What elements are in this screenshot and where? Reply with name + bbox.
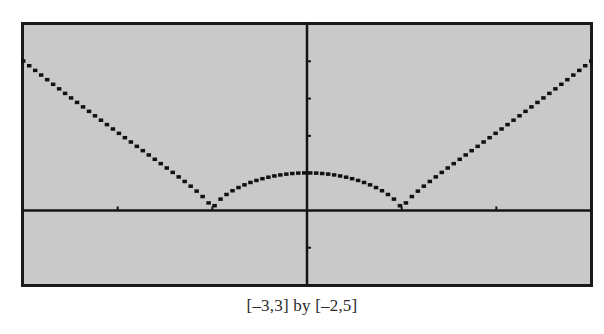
curve-pixel [117,132,122,136]
curve-pixel [565,78,570,82]
curve-pixel [559,83,564,87]
curve-pixel [254,179,259,183]
curve-pixel [27,64,32,67]
curve-pixel [21,59,26,63]
curve-pixel [188,184,193,188]
curve-pixel [535,101,540,105]
curve-pixel [398,204,403,208]
curve-pixel [99,118,104,122]
curve-pixel [410,195,415,199]
curve-pixel [404,201,409,205]
curve-pixel [386,193,391,197]
curve-pixel [481,140,486,144]
curve-pixel [350,177,355,181]
curve-pixel [362,181,367,185]
curve-pixel [164,166,169,170]
curve-pixel [308,171,313,175]
curve-pixel [469,149,474,153]
curve-pixel [266,175,271,179]
curve-pixel [159,162,164,166]
curve-pixel [206,201,211,205]
curve-pixel [75,101,80,105]
graphing-calculator-screen [21,22,593,287]
curve-pixel [218,197,223,201]
curve-pixel [475,145,480,149]
curve-pixel [553,87,558,91]
curve-pixel [571,73,576,77]
curve-pixel [236,186,241,190]
curve-pixel [463,153,468,157]
curve-pixel [428,180,433,184]
curve-pixel [422,184,427,188]
curve-pixel [69,96,74,100]
curve-pixel [302,171,307,175]
curve-pixel [33,69,38,73]
curve-pixel [374,186,379,190]
curve-pixel [141,149,146,153]
curve-pixel [57,87,62,91]
curve-pixel [356,179,361,183]
curve-pixel [320,172,325,176]
curve-pixel [284,172,289,176]
curve-pixel [135,145,140,149]
curve-pixel [200,195,205,199]
curve-pixel [170,171,175,175]
curve-pixel [147,153,152,157]
curve-pixel [224,193,229,197]
curve-pixel [212,204,217,208]
curve-pixel [260,177,265,181]
curve-pixel [457,158,462,162]
curve-pixel [344,175,349,179]
curve-pixel [523,110,528,114]
curve-pixel [248,181,253,185]
curve-pixel [416,189,421,193]
curve-pixel [505,123,510,127]
curve-pixel [123,136,128,140]
curve-pixel [296,171,301,175]
curve-pixel [87,110,92,114]
function-plot [21,22,593,287]
curve-pixel [577,69,582,73]
curve-pixel [314,171,319,175]
curve-pixel [153,158,158,162]
curve-pixel [541,96,546,100]
curve-pixel [589,59,593,63]
curve-pixel [332,173,337,177]
curve-pixel [493,132,498,136]
curve-pixel [45,78,50,82]
curve-pixel [182,180,187,184]
curve-pixel [242,183,247,187]
curve-pixel [368,183,373,187]
curve-pixel [511,118,516,122]
curve-pixel [230,189,235,193]
curve-pixel [194,189,199,193]
curve-pixel [278,173,283,177]
curve-pixel [517,114,522,118]
curve-pixel [290,172,295,176]
curve-pixel [129,140,134,144]
curve-pixel [499,127,504,131]
curve-pixel [380,189,385,193]
curve-pixel [93,114,98,118]
curve-pixel [105,123,110,127]
curve-pixel [547,92,552,96]
curve-pixel [39,73,44,77]
curve-pixel [81,105,86,109]
curve-pixel [529,105,534,109]
curve-pixel [440,171,445,175]
window-caption: [–3,3] by [–2,5] [0,296,604,316]
curve-pixel [272,174,277,178]
curve-pixel [446,166,451,170]
curve-pixel [583,64,588,67]
curve-pixel [326,172,331,176]
curve-pixel [111,127,116,131]
curve-pixel [434,175,439,179]
curve-pixel [51,83,56,87]
curve-pixel [63,92,68,96]
curve-pixel [487,136,492,140]
curve-pixel [338,174,343,178]
curve-pixel [451,162,456,166]
curve-pixel [392,197,397,201]
curve-pixel [176,175,181,179]
